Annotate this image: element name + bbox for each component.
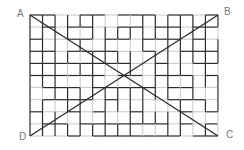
corner-label-d: D bbox=[19, 132, 26, 142]
corner-label-a: A bbox=[17, 9, 24, 19]
corner-label-c: C bbox=[226, 130, 233, 140]
corner-label-b: B bbox=[224, 7, 231, 17]
grid-diagram bbox=[0, 0, 244, 150]
